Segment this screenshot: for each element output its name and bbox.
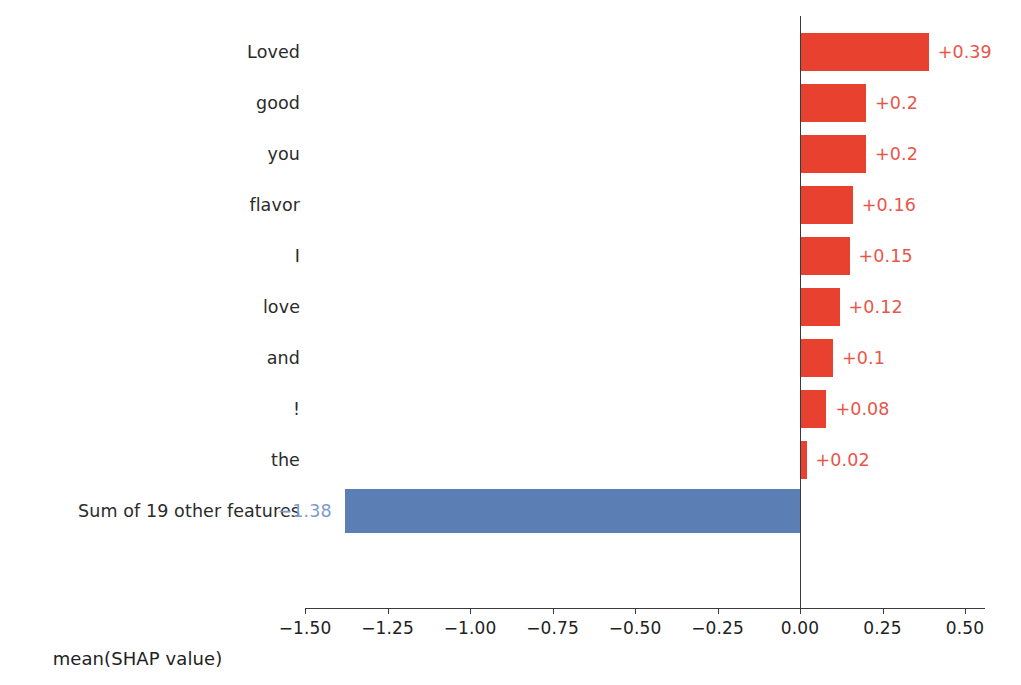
bar-value-label: +0.2	[875, 144, 918, 164]
category-label: good	[256, 93, 300, 113]
bar-row: !+0.08	[0, 383, 1021, 434]
bar-value-label: +0.02	[816, 450, 870, 470]
bar-positive	[800, 237, 850, 275]
bar-positive	[800, 339, 833, 377]
shap-bar-chart: Loved+0.39good+0.2you+0.2flavor+0.16I+0.…	[0, 0, 1021, 685]
x-axis-tick-label: −1.50	[279, 618, 332, 638]
bar-row: good+0.2	[0, 77, 1021, 128]
bar-row: flavor+0.16	[0, 179, 1021, 230]
bar-value-label: +0.15	[859, 246, 913, 266]
x-axis-title: mean(SHAP value)	[0, 648, 1021, 669]
category-label: and	[267, 348, 300, 368]
bar-row: and+0.1	[0, 332, 1021, 383]
bar-row: Loved+0.39	[0, 26, 1021, 77]
bar-row: love+0.12	[0, 281, 1021, 332]
x-axis-tick-label: −1.25	[361, 618, 414, 638]
bar-row: the+0.02	[0, 434, 1021, 485]
category-label: Loved	[247, 42, 300, 62]
category-label: you	[268, 144, 300, 164]
bar-value-label: +0.12	[849, 297, 903, 317]
bar-positive	[800, 288, 840, 326]
x-axis-tick	[635, 608, 636, 614]
x-axis-tick-label: −0.75	[526, 618, 579, 638]
bar-row: Sum of 19 other features−1.38	[0, 485, 1021, 536]
bar-value-label: +0.16	[862, 195, 916, 215]
x-axis-tick	[388, 608, 389, 614]
category-label: love	[263, 297, 300, 317]
x-axis-tick-label: −1.00	[444, 618, 497, 638]
bar-value-label: +0.39	[938, 42, 992, 62]
x-axis-tick	[883, 608, 884, 614]
bar-negative	[345, 489, 800, 533]
bar-positive	[800, 84, 866, 122]
bar-value-label: +0.08	[835, 399, 889, 419]
x-axis-tick	[800, 608, 801, 614]
bar-row: I+0.15	[0, 230, 1021, 281]
category-label: flavor	[249, 195, 300, 215]
x-axis-tick-label: 0.25	[863, 618, 901, 638]
x-axis-tick	[470, 608, 471, 614]
bar-positive	[800, 135, 866, 173]
bar-value-label: +0.2	[875, 93, 918, 113]
x-axis-tick-label: 0.50	[946, 618, 984, 638]
category-label: Sum of 19 other features	[78, 501, 300, 521]
bar-positive	[800, 390, 826, 428]
bar-value-label: −1.38	[278, 501, 332, 521]
x-axis-tick-label: −0.50	[609, 618, 662, 638]
x-axis-tick	[305, 608, 306, 614]
x-axis-tick	[965, 608, 966, 614]
bar-row: you+0.2	[0, 128, 1021, 179]
bar-positive	[800, 186, 853, 224]
plot-area: Loved+0.39good+0.2you+0.2flavor+0.16I+0.…	[0, 0, 1021, 685]
category-label: !	[293, 399, 300, 419]
zero-reference-line	[800, 16, 801, 608]
bar-value-label: +0.1	[842, 348, 885, 368]
category-label: I	[295, 246, 300, 266]
x-axis-title-text: mean(SHAP value)	[53, 648, 223, 669]
x-axis-tick	[718, 608, 719, 614]
x-axis-tick	[553, 608, 554, 614]
x-axis-tick-label: 0.00	[781, 618, 819, 638]
bar-positive	[800, 33, 929, 71]
category-label: the	[271, 450, 300, 470]
x-axis-tick-label: −0.25	[691, 618, 744, 638]
